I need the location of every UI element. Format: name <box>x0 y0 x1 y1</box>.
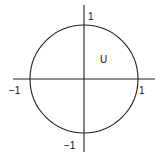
x-negative-label: −1 <box>9 85 21 96</box>
y-negative-label: −1 <box>64 140 76 151</box>
y-positive-label: 1 <box>88 11 94 22</box>
x-positive-label: 1 <box>139 85 145 96</box>
region-label-u: U <box>100 54 107 65</box>
unit-circle-diagram: 1 −1 1 −1 U <box>0 0 162 161</box>
